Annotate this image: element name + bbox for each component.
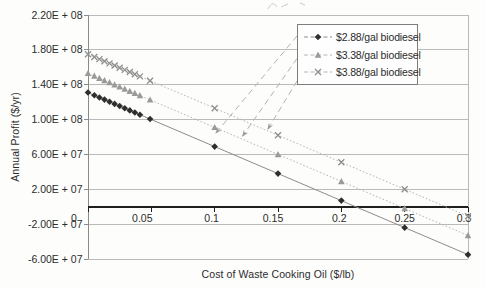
scan-artifact xyxy=(268,3,305,9)
triangle-marker-icon xyxy=(91,73,98,79)
y-tick-label: -6.00E + 07 xyxy=(28,253,83,265)
triangle-marker-icon xyxy=(302,49,334,61)
x-axis-title: Cost of Waste Cooking Oil ($/lb) xyxy=(202,268,355,280)
x-tick-label: 0 xyxy=(71,212,77,224)
x-tick-label: 0.05 xyxy=(132,212,153,224)
y-tick-label: 2.20E + 08 xyxy=(31,9,82,21)
legend: $2.88/gal biodiesel $3.38/gal biodiesel … xyxy=(297,24,418,85)
legend-entry-338: $3.38/gal biodiesel xyxy=(302,49,415,61)
diamond-marker-icon xyxy=(338,197,345,204)
x-marker-icon xyxy=(147,78,153,84)
y-tick-label: 1.80E + 08 xyxy=(31,43,82,55)
y-tick-label: 1.00E + 08 xyxy=(31,113,82,125)
x-marker-icon xyxy=(275,132,281,138)
diamond-marker-icon xyxy=(85,89,92,96)
biodiesel-profit-chart: 2.20E + 081.80E + 081.40E + 081.00E + 08… xyxy=(0,0,485,289)
triangle-marker-icon xyxy=(85,70,92,76)
x-tick-label: 0.25 xyxy=(394,212,415,224)
x-tick-label: 0.2 xyxy=(332,212,347,224)
triangle-marker-icon xyxy=(147,96,154,102)
diamond-marker-icon xyxy=(147,116,154,123)
triangle-marker-icon xyxy=(465,232,472,238)
y-tick-label: 2.00E + 07 xyxy=(31,183,82,195)
diamond-marker-icon xyxy=(275,170,282,177)
diamond-marker-icon xyxy=(211,143,218,150)
diamond-marker-icon xyxy=(401,224,408,231)
x-tick-label: 0.15 xyxy=(263,212,284,224)
legend-callout-line xyxy=(243,59,297,137)
x-marker-icon xyxy=(302,66,334,78)
x-marker-icon xyxy=(212,105,218,111)
x-marker-icon xyxy=(338,159,344,165)
legend-label: $3.38/gal biodiesel xyxy=(336,49,421,61)
diamond-marker-icon xyxy=(302,31,334,43)
triangle-marker-icon xyxy=(338,178,345,184)
legend-entry-288: $2.88/gal biodiesel xyxy=(302,31,415,43)
legend-callout-line xyxy=(268,81,297,129)
legend-entry-388: $3.88/gal biodiesel xyxy=(302,66,415,78)
legend-label: $2.88/gal biodiesel xyxy=(336,31,421,43)
series-diamond xyxy=(85,89,472,258)
triangle-marker-icon xyxy=(211,124,218,130)
diamond-marker-icon xyxy=(465,251,472,258)
diamond-marker-icon xyxy=(315,34,322,41)
x-tick-label: 0.1 xyxy=(204,212,219,224)
y-tick-label: 1.40E + 08 xyxy=(31,78,82,90)
y-tick-label: 6.00E + 07 xyxy=(31,148,82,160)
legend-label: $3.88/gal biodiesel xyxy=(336,66,421,78)
y-axis-title: Annual Profit ($/yr) xyxy=(9,92,21,182)
